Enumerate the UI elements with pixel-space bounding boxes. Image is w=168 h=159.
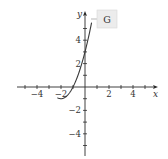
y-tick-label: −4	[68, 129, 81, 139]
y-tick-label: −2	[68, 105, 81, 115]
x-axis-label: x	[153, 89, 158, 99]
x-tick-label: 4	[130, 89, 135, 99]
callout-label-G: G	[103, 14, 111, 25]
x-tick-label: −4	[31, 89, 44, 99]
y-axis-label: y	[76, 9, 83, 19]
x-tick-label: 2	[106, 89, 111, 99]
axes	[17, 11, 158, 156]
y-tick-label: 4	[76, 35, 81, 45]
function-graph: −4−22442−2−4 x y G	[0, 0, 168, 159]
